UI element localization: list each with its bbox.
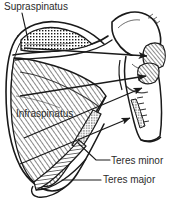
label-infraspinatus: Infraspinatus <box>16 108 73 119</box>
label-supraspinatus: Supraspinatus <box>4 1 68 12</box>
label-teres-minor: Teres minor <box>111 155 163 166</box>
label-teres-major: Teres major <box>103 174 155 185</box>
anatomical-diagram: Supraspinatus Infraspinatus Teres minor … <box>0 0 172 207</box>
